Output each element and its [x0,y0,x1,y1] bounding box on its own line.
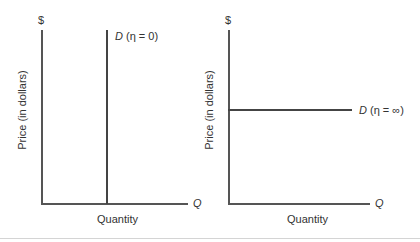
left-demand-d: D [115,30,123,42]
left-demand-eta: (η = 0) [126,30,158,42]
left-x-axis-q: Q [193,197,202,209]
right-demand-horizontal-line [228,109,352,111]
right-x-axis-label: Quantity [287,213,328,225]
right-y-axis-label: Price (in dollars) [203,60,215,160]
bottom-divider [0,238,420,239]
left-y-axis-label: Price (in dollars) [16,60,28,160]
right-y-axis [228,30,230,204]
left-demand-label: D (η = 0) [115,30,158,42]
right-demand-d: D [359,104,367,116]
left-y-axis-dollar: $ [38,14,44,26]
right-x-axis [228,203,370,205]
left-x-axis [41,203,188,205]
right-demand-label: D (η = ∞) [359,104,404,116]
left-demand-vertical-line [106,30,108,204]
right-y-axis-dollar: $ [225,14,231,26]
right-x-axis-q: Q [375,197,384,209]
left-y-axis [41,30,43,204]
right-demand-eta: (η = ∞) [370,104,404,116]
left-x-axis-label: Quantity [97,213,138,225]
